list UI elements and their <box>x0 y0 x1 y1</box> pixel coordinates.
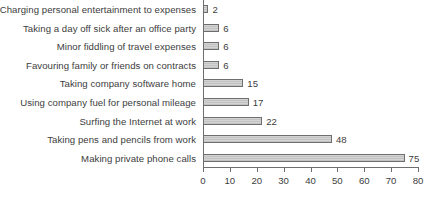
category-label: Surfing the Internet at work <box>0 112 199 131</box>
bar <box>203 42 219 50</box>
bar <box>203 79 243 87</box>
category-label: Charging personal entertainment to expen… <box>0 0 199 19</box>
x-axis-tick <box>203 168 204 172</box>
x-axis-tick <box>337 168 338 172</box>
bar-value-label: 17 <box>253 93 264 112</box>
x-axis-tick-label: 10 <box>218 175 242 186</box>
bar-value-label: 6 <box>223 56 228 75</box>
bar-value-label: 2 <box>212 0 217 19</box>
bar <box>203 154 405 162</box>
x-axis-tick-label: 20 <box>245 175 269 186</box>
category-label: Minor fiddling of travel expenses <box>0 37 199 56</box>
bar-row: Charging personal entertainment to expen… <box>0 0 433 19</box>
bar-row: Surfing the Internet at work22 <box>0 112 433 131</box>
bar <box>203 5 208 13</box>
bar-value-label: 15 <box>247 74 258 93</box>
x-axis-tick <box>311 168 312 172</box>
bar <box>203 135 332 143</box>
bar-row: Minor fiddling of travel expenses6 <box>0 37 433 56</box>
bar-value-label: 75 <box>409 149 420 168</box>
bar <box>203 24 219 32</box>
cropped-caption-remnant <box>0 193 433 199</box>
x-axis-tick-label: 40 <box>299 175 323 186</box>
category-label: Taking pens and pencils from work <box>0 130 199 149</box>
x-axis-tick-label: 50 <box>325 175 349 186</box>
bar-row: Favouring family or friends on contracts… <box>0 56 433 75</box>
bar <box>203 117 262 125</box>
bar-row: Using company fuel for personal mileage1… <box>0 93 433 112</box>
x-axis-tick <box>257 168 258 172</box>
bar <box>203 61 219 69</box>
bar-row: Making private phone calls75 <box>0 149 433 168</box>
bar-row: Taking company software home15 <box>0 74 433 93</box>
bar <box>203 98 249 106</box>
bar-value-label: 6 <box>223 19 228 38</box>
category-label: Taking a day off sick after an office pa… <box>0 19 199 38</box>
x-axis-tick <box>230 168 231 172</box>
x-axis-tick-label: 60 <box>352 175 376 186</box>
x-axis-tick-label: 80 <box>406 175 430 186</box>
bar-row: Taking pens and pencils from work48 <box>0 130 433 149</box>
x-axis-tick-label: 30 <box>272 175 296 186</box>
bar-row: Taking a day off sick after an office pa… <box>0 19 433 38</box>
bar-value-label: 48 <box>336 130 347 149</box>
horizontal-bar-chart: Charging personal entertainment to expen… <box>0 0 433 199</box>
x-axis-tick <box>418 168 419 172</box>
category-label: Taking company software home <box>0 74 199 93</box>
x-axis-tick-label: 70 <box>379 175 403 186</box>
x-axis-tick <box>284 168 285 172</box>
category-label: Making private phone calls <box>0 149 199 168</box>
x-axis-tick <box>391 168 392 172</box>
category-label: Using company fuel for personal mileage <box>0 93 199 112</box>
bar-value-label: 6 <box>223 37 228 56</box>
x-axis-tick <box>364 168 365 172</box>
x-axis-tick-label: 0 <box>191 175 215 186</box>
category-label: Favouring family or friends on contracts <box>0 56 199 75</box>
bar-value-label: 22 <box>266 112 277 131</box>
